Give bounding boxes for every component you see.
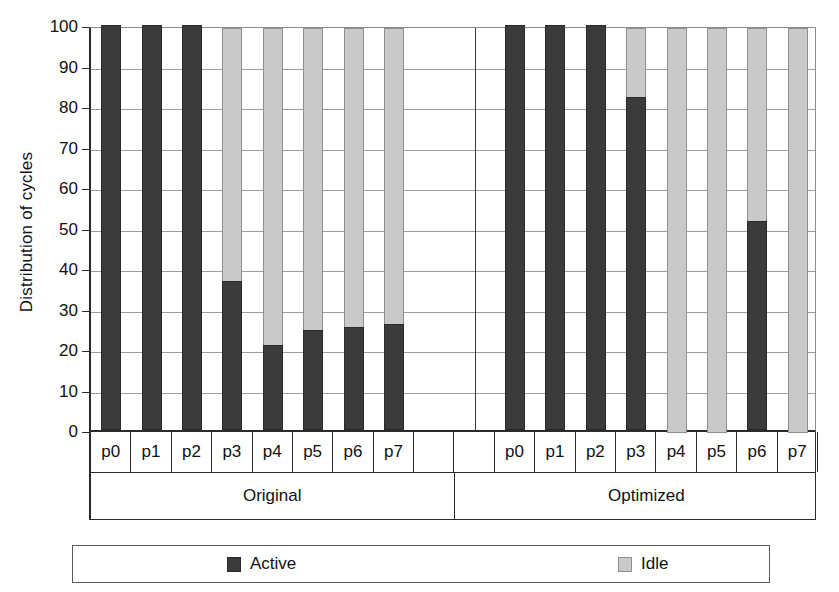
bar-segment-idle[interactable] <box>747 28 767 224</box>
bar-slot-optimized-p1 <box>535 28 575 430</box>
y-tick-label-20: 20 <box>30 342 78 359</box>
bar-segment-idle[interactable] <box>626 28 646 100</box>
y-tick-mark-30 <box>82 311 89 312</box>
legend-entry-active[interactable]: Active <box>227 546 296 582</box>
bar-segment-active[interactable] <box>142 25 162 430</box>
bar-slot-original-p2 <box>172 28 212 430</box>
category-label-original-p1: p1 <box>131 432 171 472</box>
stacked-bar-original-p4[interactable] <box>263 28 283 430</box>
y-tick-mark-70 <box>82 149 89 150</box>
y-tick-label-50: 50 <box>30 221 78 238</box>
bar-segment-active[interactable] <box>384 324 404 430</box>
bar-segment-idle[interactable] <box>707 28 727 433</box>
bar-segment-idle[interactable] <box>222 28 242 284</box>
y-tick-mark-100 <box>82 27 89 28</box>
bar-slot-optimized-p7 <box>778 28 818 430</box>
stacked-bar-optimized-p0[interactable] <box>505 28 525 430</box>
bar-segment-active[interactable] <box>263 345 283 430</box>
bar-segment-active[interactable] <box>626 97 646 430</box>
y-tick-mark-60 <box>82 189 89 190</box>
bar-slot-original-p1 <box>131 28 171 430</box>
bar-segment-idle[interactable] <box>303 28 323 333</box>
stacked-bar-original-p0[interactable] <box>101 28 121 430</box>
bar-segment-active[interactable] <box>505 25 525 430</box>
chart-legend: ActiveIdle <box>72 545 770 583</box>
stacked-bar-optimized-p2[interactable] <box>586 28 606 430</box>
category-label-original-p4: p4 <box>253 432 293 472</box>
y-tick-label-90: 90 <box>30 59 78 76</box>
bar-segment-idle[interactable] <box>788 28 808 433</box>
bar-segment-active[interactable] <box>586 25 606 430</box>
bar-segment-idle[interactable] <box>263 28 283 348</box>
active-swatch <box>227 557 241 572</box>
y-tick-mark-40 <box>82 270 89 271</box>
bar-segment-active[interactable] <box>344 327 364 430</box>
category-label-optimized-p2: p2 <box>576 432 616 472</box>
category-label-optimized-p0: p0 <box>495 432 535 472</box>
bar-segment-idle[interactable] <box>384 28 404 327</box>
category-label-original-p2: p2 <box>172 432 212 472</box>
y-tick-label-0: 0 <box>30 423 78 440</box>
category-label-optimized-p3: p3 <box>616 432 656 472</box>
category-cell-empty <box>455 432 495 472</box>
bar-segment-active[interactable] <box>101 25 121 430</box>
stacked-bar-original-p6[interactable] <box>344 28 364 430</box>
category-label-original-p0: p0 <box>91 432 131 472</box>
group-label-optimized: Optimized <box>475 473 818 519</box>
y-tick-mark-80 <box>82 108 89 109</box>
bar-segment-active[interactable] <box>545 25 565 430</box>
bar-segment-active[interactable] <box>747 221 767 430</box>
y-tick-mark-0 <box>82 432 89 433</box>
bar-segment-active[interactable] <box>182 25 202 430</box>
stacked-bar-optimized-p4[interactable] <box>667 28 687 430</box>
y-tick-label-100: 100 <box>30 18 78 35</box>
bar-slot-original-p5 <box>293 28 333 430</box>
category-label-original-p6: p6 <box>333 432 373 472</box>
category-axis-band: p0p1p2p3p4p5p6p7p0p1p2p3p4p5p6p7 <box>89 432 816 473</box>
stacked-bar-original-p3[interactable] <box>222 28 242 430</box>
chart-container: Distribution of cycles 10090807060504030… <box>0 0 839 592</box>
group-label-original: Original <box>91 473 455 519</box>
stacked-bar-optimized-p3[interactable] <box>626 28 646 430</box>
y-axis-tick-labels: 1009080706050403020100 <box>30 27 78 432</box>
bar-segment-active[interactable] <box>222 281 242 430</box>
bar-segment-idle[interactable] <box>667 28 687 433</box>
bar-slot-optimized-p4 <box>656 28 696 430</box>
idle-swatch <box>618 557 632 572</box>
stacked-bar-optimized-p6[interactable] <box>747 28 767 430</box>
bar-segment-idle[interactable] <box>344 28 364 330</box>
bar-slot-optimized-p3 <box>616 28 656 430</box>
y-tick-mark-20 <box>82 351 89 352</box>
stacked-bar-original-p7[interactable] <box>384 28 404 430</box>
y-tick-label-60: 60 <box>30 180 78 197</box>
bar-slot-original-p3 <box>212 28 252 430</box>
y-tick-label-30: 30 <box>30 302 78 319</box>
category-label-optimized-p6: p6 <box>737 432 777 472</box>
stacked-bar-original-p5[interactable] <box>303 28 323 430</box>
y-tick-mark-10 <box>82 392 89 393</box>
bar-segment-active[interactable] <box>303 330 323 430</box>
stacked-bar-original-p2[interactable] <box>182 28 202 430</box>
category-label-optimized-p7: p7 <box>778 432 818 472</box>
bar-slot-optimized-p0 <box>495 28 535 430</box>
bar-slot-original-p0 <box>91 28 131 430</box>
bar-slot-original-p7 <box>374 28 414 430</box>
category-label-optimized-p4: p4 <box>656 432 696 472</box>
bar-slot-optimized-p5 <box>697 28 737 430</box>
group-divider <box>475 28 476 430</box>
category-cell-empty <box>414 432 454 472</box>
bar-slot-optimized-p2 <box>576 28 616 430</box>
category-label-original-p5: p5 <box>293 432 333 472</box>
group-axis-band: OriginalOptimized <box>89 473 816 520</box>
category-label-optimized-p1: p1 <box>535 432 575 472</box>
legend-entry-idle[interactable]: Idle <box>618 546 668 582</box>
stacked-bar-optimized-p5[interactable] <box>707 28 727 430</box>
y-tick-mark-50 <box>82 230 89 231</box>
legend-label: Active <box>250 554 296 574</box>
stacked-bar-original-p1[interactable] <box>142 28 162 430</box>
stacked-bar-optimized-p1[interactable] <box>545 28 565 430</box>
stacked-bar-optimized-p7[interactable] <box>788 28 808 430</box>
category-label-original-p7: p7 <box>374 432 414 472</box>
y-tick-label-40: 40 <box>30 261 78 278</box>
y-tick-label-80: 80 <box>30 99 78 116</box>
